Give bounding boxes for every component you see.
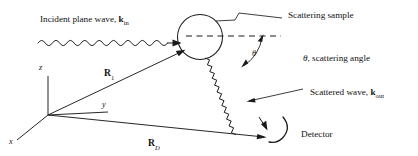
x-axis-label: x <box>9 138 13 146</box>
scattered-wave-graphic <box>205 58 268 135</box>
theta-arc-label: θ <box>252 50 256 58</box>
detector-label: Detector <box>301 130 333 139</box>
y-axis <box>48 112 108 115</box>
k-in-subscript: in <box>124 19 129 26</box>
vector-r1-arrow <box>48 50 186 115</box>
k-out-subscript: out <box>376 92 384 99</box>
scattered-wave-label: Scattered wave, kout <box>310 88 384 99</box>
scattering-angle-text: , scattering angle <box>308 53 371 63</box>
vector-rd-symbol: R <box>148 137 155 148</box>
scattered-wave-label-text: Scattered wave, <box>310 87 370 97</box>
scattering-sample-leader-line <box>216 13 282 21</box>
scattering-angle-label: θ, scattering angle <box>303 54 370 63</box>
scattering-sample-circle <box>178 15 223 60</box>
detector-arc <box>269 117 287 142</box>
vector-rd-subscript: D <box>155 144 160 151</box>
scattering-diagram-figure: Incident plane wave, kin Scattering samp… <box>0 0 418 156</box>
z-axis-label: z <box>39 64 42 72</box>
incident-wave-label-text: Incident plane wave, <box>40 14 119 24</box>
incident-wave-label: Incident plane wave, kin <box>40 15 129 26</box>
vector-r1-symbol: R <box>104 67 111 78</box>
vector-rd-label: RD <box>148 133 160 152</box>
x-axis <box>17 115 48 140</box>
scattering-sample-label: Scattering sample <box>288 11 354 20</box>
y-axis-label: y <box>102 101 106 109</box>
incident-wave-graphic <box>38 40 182 47</box>
vector-r1-label: R1 <box>104 63 114 82</box>
vector-r1-subscript: 1 <box>111 74 114 81</box>
scattered-wave-leader-line <box>247 89 304 102</box>
incident-wave-arrowhead <box>173 40 182 47</box>
